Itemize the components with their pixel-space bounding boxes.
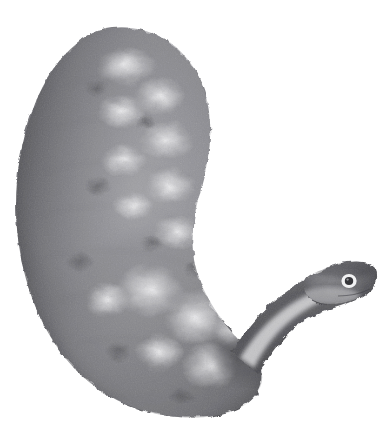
- paper-tone-overlay: [0, 0, 388, 425]
- illustration-plate: · · · · · · · ·: [0, 0, 388, 425]
- specimen-figure: [0, 0, 388, 425]
